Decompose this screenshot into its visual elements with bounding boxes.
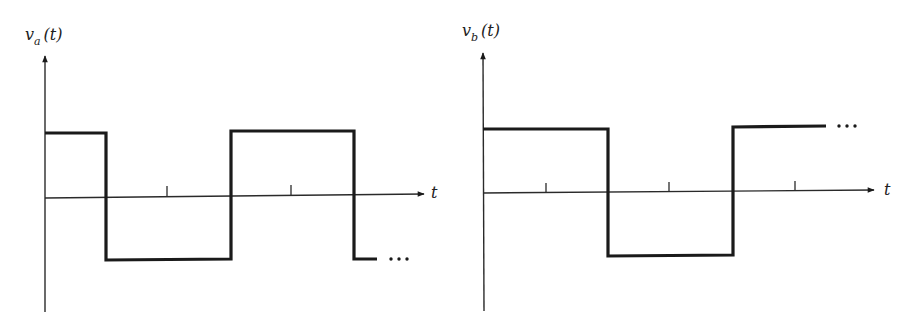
va-t-label: t	[431, 183, 438, 202]
plot-va: va(t) t	[25, 25, 438, 312]
vb-y-axis	[483, 53, 484, 311]
vb-t-axis	[483, 190, 874, 193]
vb-y-axis-label: vb(t)	[462, 21, 500, 44]
va-y-axis-label: va(t)	[25, 25, 63, 48]
va-t-axis	[45, 194, 424, 198]
vb-t-label: t	[884, 180, 891, 199]
waveform-figure: va(t) t vb(t) t	[0, 0, 917, 327]
vb-continuation-dots	[837, 124, 856, 127]
plot-vb: vb(t) t	[462, 21, 891, 311]
va-continuation-dots	[389, 257, 408, 260]
